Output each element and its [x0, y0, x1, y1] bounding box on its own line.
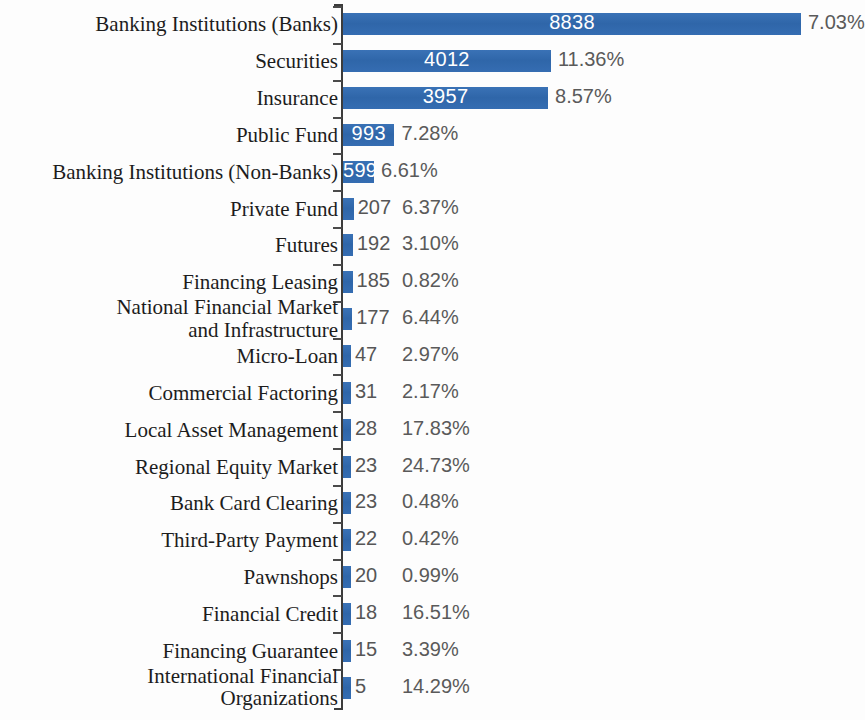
- bar[interactable]: [343, 345, 351, 367]
- category-label: National Financial Market and Infrastruc…: [8, 296, 338, 341]
- percent-label: 6.44%: [402, 306, 459, 329]
- percent-label: 6.37%: [402, 196, 459, 219]
- bar[interactable]: [343, 308, 352, 330]
- value-label: 599: [343, 159, 374, 182]
- value-label: 192: [357, 232, 390, 255]
- table-row[interactable]: International Financial Organizations514…: [0, 669, 865, 706]
- table-row[interactable]: Financial Credit1816.51%: [0, 595, 865, 632]
- percent-label: 7.03%: [808, 11, 865, 34]
- category-label: Bank Card Clearing: [8, 492, 338, 515]
- category-label: Banking Institutions (Banks): [8, 13, 338, 36]
- table-row[interactable]: Third-Party Payment220.42%: [0, 522, 865, 559]
- category-label: Third-Party Payment: [8, 529, 338, 552]
- bar[interactable]: [343, 456, 351, 478]
- bar[interactable]: [343, 640, 351, 662]
- bar[interactable]: [343, 603, 351, 625]
- value-label: 4012: [343, 48, 551, 71]
- percent-label: 0.48%: [402, 490, 459, 513]
- percent-label: 17.83%: [402, 417, 470, 440]
- bar[interactable]: [343, 566, 351, 588]
- category-label: Insurance: [8, 87, 338, 110]
- horizontal-bar-chart: Banking Institutions (Banks)88387.03%Sec…: [0, 0, 865, 720]
- value-label: 20: [355, 564, 377, 587]
- table-row[interactable]: Commercial Factoring312.17%: [0, 374, 865, 411]
- bar[interactable]: [343, 419, 351, 441]
- category-label: Pawnshops: [8, 566, 338, 589]
- category-label: Securities: [8, 50, 338, 73]
- value-label: 23: [355, 454, 377, 477]
- category-label: Private Fund: [8, 197, 338, 220]
- percent-label: 2.97%: [402, 343, 459, 366]
- value-label: 3957: [343, 85, 548, 108]
- bar[interactable]: [343, 529, 351, 551]
- category-label: Financing Leasing: [8, 271, 338, 294]
- percent-label: 24.73%: [402, 454, 470, 477]
- value-label: 207: [358, 196, 391, 219]
- category-label: Banking Institutions (Non-Banks): [8, 160, 338, 183]
- bar[interactable]: [343, 382, 351, 404]
- category-label: Local Asset Management: [8, 418, 338, 441]
- percent-label: 14.29%: [402, 675, 470, 698]
- value-label: 185: [357, 269, 390, 292]
- percent-label: 11.36%: [558, 48, 624, 71]
- table-row[interactable]: Private Fund2076.37%: [0, 190, 865, 227]
- percent-label: 8.57%: [555, 85, 612, 108]
- value-label: 31: [355, 380, 377, 403]
- percent-label: 3.39%: [402, 638, 459, 661]
- value-label: 23: [355, 490, 377, 513]
- table-row[interactable]: Financing Guarantee153.39%: [0, 632, 865, 669]
- category-label: Financial Credit: [8, 603, 338, 626]
- table-row[interactable]: Bank Card Clearing230.48%: [0, 485, 865, 522]
- value-label: 993: [343, 122, 394, 145]
- table-row[interactable]: Futures1923.10%: [0, 227, 865, 264]
- category-label: Micro-Loan: [8, 345, 338, 368]
- value-label: 47: [355, 343, 377, 366]
- percent-label: 3.10%: [402, 232, 459, 255]
- table-row[interactable]: Insurance39578.57%: [0, 80, 865, 117]
- percent-label: 0.82%: [402, 269, 459, 292]
- bar[interactable]: [343, 234, 353, 256]
- bar[interactable]: [343, 198, 354, 220]
- percent-label: 6.61%: [381, 159, 438, 182]
- percent-label: 16.51%: [402, 601, 470, 624]
- value-label: 18: [355, 601, 377, 624]
- category-label: Financing Guarantee: [8, 639, 338, 662]
- value-label: 28: [355, 417, 377, 440]
- table-row[interactable]: Securities401211.36%: [0, 43, 865, 80]
- percent-label: 2.17%: [402, 380, 459, 403]
- category-label: Public Fund: [8, 124, 338, 147]
- table-row[interactable]: National Financial Market and Infrastruc…: [0, 301, 865, 338]
- category-label: Commercial Factoring: [8, 381, 338, 404]
- value-label: 15: [355, 638, 377, 661]
- table-row[interactable]: Pawnshops200.99%: [0, 559, 865, 596]
- table-row[interactable]: Banking Institutions (Banks)88387.03%: [0, 6, 865, 43]
- table-row[interactable]: Local Asset Management2817.83%: [0, 411, 865, 448]
- percent-label: 7.28%: [401, 122, 458, 145]
- value-label: 22: [355, 527, 377, 550]
- value-label: 5: [355, 675, 366, 698]
- percent-label: 0.99%: [402, 564, 459, 587]
- table-row[interactable]: Public Fund9937.28%: [0, 117, 865, 154]
- table-row[interactable]: Micro-Loan472.97%: [0, 338, 865, 375]
- table-row[interactable]: Regional Equity Market2324.73%: [0, 448, 865, 485]
- bar[interactable]: [343, 677, 351, 699]
- percent-label: 0.42%: [402, 527, 459, 550]
- value-label: 8838: [343, 11, 801, 34]
- value-label: 177: [356, 306, 389, 329]
- category-label: Futures: [8, 234, 338, 257]
- table-row[interactable]: Banking Institutions (Non-Banks)5996.61%: [0, 153, 865, 190]
- bar[interactable]: [343, 271, 353, 293]
- bar[interactable]: [343, 492, 351, 514]
- category-label: International Financial Organizations: [8, 665, 338, 710]
- category-label: Regional Equity Market: [8, 455, 338, 478]
